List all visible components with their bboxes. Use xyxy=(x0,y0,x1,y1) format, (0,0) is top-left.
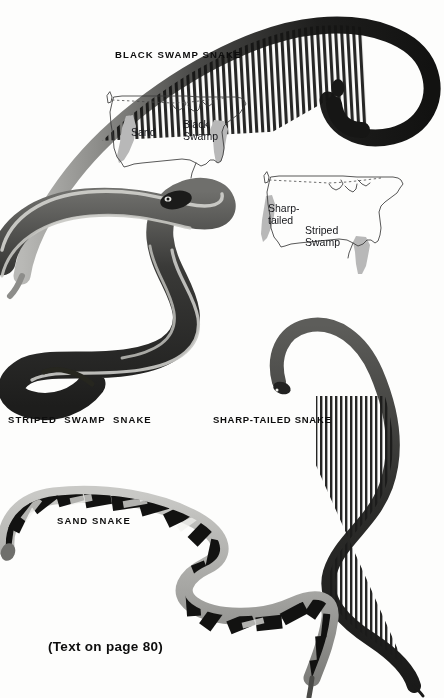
range-shade-striped-swamp xyxy=(353,236,370,274)
map-label-striped-swamp: Striped Swamp xyxy=(305,225,340,248)
upper-range-map xyxy=(107,92,246,178)
range-shade-sand xyxy=(117,115,136,163)
border-dashed xyxy=(269,178,381,183)
border-dashed xyxy=(112,98,224,103)
range-maps-layer xyxy=(0,0,444,698)
caption-sand-snake: SAND SNAKE xyxy=(57,515,131,526)
map-label-black-swamp: Black Swamp xyxy=(183,119,218,142)
map-label-sand: Sand xyxy=(131,127,156,139)
map-label-sharp-tailed: Sharp- tailed xyxy=(268,203,300,226)
text-reference-credit: (Text on page 80) xyxy=(48,639,163,654)
caption-sharp-tailed-snake: SHARP-TAILED SNAKE xyxy=(213,414,332,425)
caption-striped-swamp-snake: STRIPED SWAMP SNAKE xyxy=(8,414,152,425)
snake-plate: BLACK SWAMP SNAKE STRIPED SWAMP SNAKE SH… xyxy=(0,0,444,698)
caption-black-swamp-snake: BLACK SWAMP SNAKE xyxy=(115,49,241,60)
